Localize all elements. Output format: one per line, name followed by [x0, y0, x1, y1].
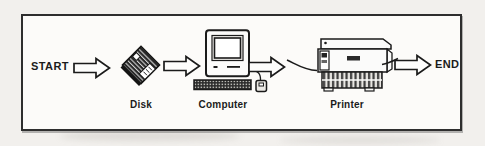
flow-arrow-icon — [394, 54, 432, 76]
end-label: END — [435, 59, 459, 70]
flowchart-frame: START Disk — [21, 14, 462, 131]
flow-arrow-icon — [248, 56, 286, 78]
scan-noise — [280, 136, 440, 144]
floppy-disk-icon — [119, 43, 163, 87]
flow-arrow-icon — [73, 57, 111, 79]
start-label: START — [31, 61, 69, 72]
scan-noise — [60, 131, 240, 141]
computer-label: Computer — [191, 100, 255, 110]
printer-label: Printer — [318, 100, 376, 110]
disk-label: Disk — [119, 100, 163, 110]
